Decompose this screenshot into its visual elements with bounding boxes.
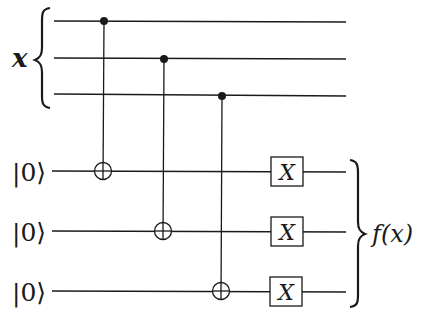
control-dot-2 xyxy=(160,55,168,63)
control-dot-1 xyxy=(100,17,108,25)
ancilla-label-2: |0⟩ xyxy=(12,218,46,248)
input-label: x xyxy=(11,43,28,73)
cnot-line-1 xyxy=(103,21,104,179)
cnot-target-3 xyxy=(213,283,230,300)
ancilla-label-1: |0⟩ xyxy=(12,158,46,188)
cnot-target-2 xyxy=(155,223,172,240)
input-wire-2 xyxy=(54,58,346,59)
cnot-line-2 xyxy=(163,58,164,239)
output-brace xyxy=(350,160,365,307)
input-wire-1 xyxy=(54,21,346,22)
x-gate-label-1: X xyxy=(277,160,296,185)
ancilla-label-3: |0⟩ xyxy=(12,278,46,308)
x-gate-label-3: X xyxy=(276,280,295,305)
cnot-target-1 xyxy=(95,163,112,180)
output-label: f(x) xyxy=(370,220,413,248)
cnot-line-3 xyxy=(221,96,222,299)
control-dot-3 xyxy=(218,92,226,100)
x-gate-label-2: X xyxy=(277,220,296,245)
quantum-circuit: x |0⟩ |0⟩ |0⟩ X X X f(x) xyxy=(0,0,429,316)
input-brace xyxy=(35,8,50,108)
input-wire-3 xyxy=(54,94,346,96)
